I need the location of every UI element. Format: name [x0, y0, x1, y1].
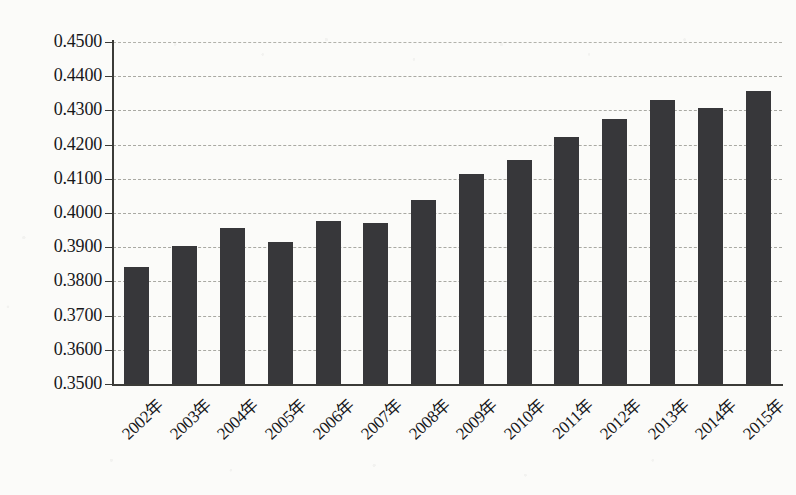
bar: [507, 160, 532, 384]
y-axis-tick-label: 0.3600: [2, 339, 102, 360]
y-axis-tick-label: 0.4300: [2, 99, 102, 120]
y-axis-tick-label: 0.4500: [2, 31, 102, 52]
x-axis-tick-label: 2006年: [306, 392, 359, 444]
x-axis-tick-label: 2012年: [593, 392, 646, 444]
gridline: [113, 42, 782, 43]
y-axis-line: [112, 40, 114, 386]
x-axis-tick-label: 2015年: [736, 392, 789, 444]
bar: [698, 108, 723, 384]
bar: [650, 100, 675, 384]
x-axis-tick-label: 2007年: [354, 392, 407, 444]
gridline: [113, 350, 782, 351]
plot-area: [113, 42, 782, 384]
x-axis-tick-label: 2002年: [115, 392, 168, 444]
bar: [411, 200, 436, 384]
y-axis-tick-label: 0.4200: [2, 134, 102, 155]
x-axis-line: [112, 384, 783, 386]
x-axis-tick-label: 2014年: [688, 392, 741, 444]
bar: [554, 137, 579, 384]
y-axis-tick-label: 0.3500: [2, 373, 102, 394]
bar: [124, 267, 149, 384]
gridline: [113, 76, 782, 77]
y-axis-tick-label: 0.3900: [2, 236, 102, 257]
chart-page: 0.45000.44000.43000.42000.41000.40000.39…: [0, 0, 796, 495]
x-axis-tick-label: 2008年: [401, 392, 454, 444]
bar: [602, 119, 627, 384]
bar: [316, 221, 341, 384]
gridline: [113, 316, 782, 317]
y-axis-tick-label: 0.4400: [2, 65, 102, 86]
y-axis-tick-label: 0.3700: [2, 305, 102, 326]
x-axis-tick-label: 2004年: [210, 392, 263, 444]
gridline: [113, 145, 782, 146]
y-axis-tick-label: 0.4000: [2, 202, 102, 223]
gridline: [113, 281, 782, 282]
bar: [268, 242, 293, 384]
gridline: [113, 213, 782, 214]
x-axis-tick-label: 2003年: [162, 392, 215, 444]
bar: [172, 246, 197, 385]
y-axis-labels: 0.45000.44000.43000.42000.41000.40000.39…: [0, 42, 102, 384]
gridline: [113, 179, 782, 180]
bar: [363, 223, 388, 384]
gridline: [113, 110, 782, 111]
bar: [220, 228, 245, 384]
x-axis-tick-label: 2011年: [545, 392, 598, 444]
x-axis-tick-label: 2009年: [449, 392, 502, 444]
bar: [459, 174, 484, 384]
x-axis-tick-label: 2013年: [640, 392, 693, 444]
y-axis-tick-label: 0.4100: [2, 168, 102, 189]
y-axis-tick-label: 0.3800: [2, 270, 102, 291]
x-axis-tick-label: 2005年: [258, 392, 311, 444]
gridline: [113, 247, 782, 248]
bar: [746, 91, 771, 384]
x-axis-tick-label: 2010年: [497, 392, 550, 444]
